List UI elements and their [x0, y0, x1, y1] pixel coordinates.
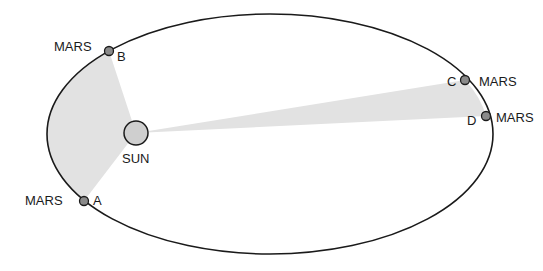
swept-area-ab: [46, 51, 136, 201]
mars-position-c-icon: [461, 76, 470, 85]
mars-position-a-icon: [80, 197, 89, 206]
sun-icon: [124, 121, 148, 145]
swept-area-cd: [136, 80, 486, 133]
mars-label-d: MARS: [496, 110, 534, 125]
mars-label-c: MARS: [479, 74, 517, 89]
diagram-canvas: SUN MARS B MARS A C MARS D MARS: [0, 0, 543, 271]
point-label-d: D: [467, 113, 476, 128]
point-label-a: A: [93, 193, 102, 208]
kepler-orbit-diagram: SUN MARS B MARS A C MARS D MARS: [0, 0, 543, 271]
point-label-c: C: [447, 74, 456, 89]
mars-position-d-icon: [482, 112, 491, 121]
point-label-b: B: [117, 49, 126, 64]
mars-label-a: MARS: [25, 193, 63, 208]
mars-label-b: MARS: [54, 39, 92, 54]
mars-position-b-icon: [105, 47, 114, 56]
sun-label: SUN: [122, 151, 149, 166]
